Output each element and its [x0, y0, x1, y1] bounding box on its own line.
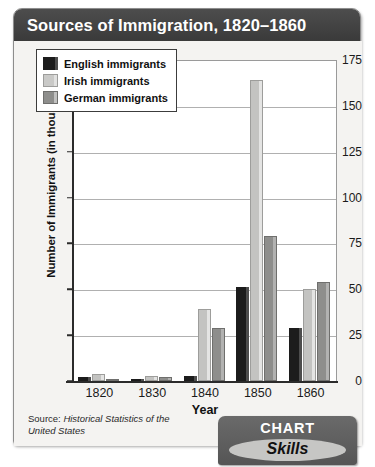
legend-label-english: English immigrants	[64, 58, 166, 70]
y-tick-mark	[67, 380, 73, 382]
y-tick-mark	[67, 289, 73, 291]
chart-body: Number of Immigrants (in thousands) 0255…	[14, 41, 362, 446]
x-axis-line	[66, 381, 338, 383]
bar-english-1820	[78, 377, 91, 381]
legend-label-irish: Irish immigrants	[64, 75, 150, 87]
y-tick-mark	[67, 151, 73, 153]
bar-german-1850	[264, 236, 277, 381]
chart-legend: English immigrants Irish immigrants Germ…	[36, 49, 177, 112]
legend-swatch-irish-icon	[43, 74, 58, 87]
bar-irish-1850	[250, 80, 263, 381]
bar-english-1860	[289, 328, 302, 381]
bar-irish-1840	[198, 309, 211, 381]
y-tick-mark	[67, 334, 73, 336]
x-tick-label: 1840	[175, 386, 235, 400]
figure-title-bar: Sources of Immigration, 1820–1860	[14, 9, 360, 41]
x-tick-label: 1820	[69, 386, 129, 400]
chart-figure-card: Sources of Immigration, 1820–1860 Number…	[13, 8, 361, 445]
legend-swatch-german-icon	[43, 91, 58, 104]
legend-swatch-english-icon	[43, 57, 58, 70]
bar-irish-1860	[303, 289, 316, 381]
y-tick-mark	[67, 197, 73, 199]
bar-english-1840	[184, 376, 197, 382]
x-tick-label: 1830	[122, 386, 182, 400]
badge-top-label: CHART	[218, 420, 357, 436]
legend-item-german: German immigrants	[43, 89, 168, 106]
bar-english-1830	[131, 379, 144, 381]
bar-english-1850	[236, 287, 249, 381]
bar-group-1860	[289, 60, 331, 381]
legend-item-english: English immigrants	[43, 55, 168, 72]
source-note: Source: Historical Statistics of the Uni…	[28, 413, 178, 437]
x-tick-label: 1850	[228, 386, 288, 400]
bar-group-1850	[236, 60, 278, 381]
chart-skills-badge: CHART Skills	[218, 416, 357, 465]
bar-german-1830	[159, 377, 172, 381]
figure-title: Sources of Immigration, 1820–1860	[14, 16, 306, 35]
bar-irish-1820	[92, 374, 105, 381]
source-label: Source:	[28, 413, 61, 424]
legend-item-irish: Irish immigrants	[43, 72, 168, 89]
x-tick-label: 1860	[281, 386, 341, 400]
bar-german-1820	[106, 379, 119, 381]
bar-german-1840	[212, 328, 225, 381]
bar-irish-1830	[145, 376, 158, 382]
badge-bottom-label: Skills	[218, 440, 357, 458]
bar-group-1840	[184, 60, 226, 381]
legend-label-german: German immigrants	[64, 92, 168, 104]
y-tick-mark	[67, 243, 73, 245]
bar-german-1860	[317, 282, 330, 381]
